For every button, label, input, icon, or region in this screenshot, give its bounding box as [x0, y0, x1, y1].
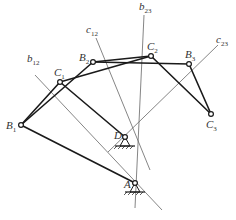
- link-B2-B3: [93, 62, 189, 64]
- label-c12: c12: [86, 23, 98, 38]
- label-B2: B2: [79, 51, 90, 66]
- joint-B3-icon: [187, 62, 192, 67]
- label-D: D: [113, 129, 122, 141]
- label-b12: b12: [27, 52, 40, 67]
- joint-C3-icon: [209, 112, 214, 117]
- label-C2: C2: [147, 40, 158, 55]
- link-B1-C1: [21, 82, 60, 125]
- joint-C2-icon: [149, 54, 154, 59]
- bisector-b23-line: [135, 15, 144, 208]
- joint-B1-icon: [19, 123, 24, 128]
- label-b23: b23: [139, 0, 152, 15]
- joints: [19, 54, 214, 186]
- link-C2-C3: [151, 56, 211, 114]
- link-C1-C2: [60, 56, 151, 82]
- label-B1: B1: [6, 119, 17, 134]
- linkage-diagram: B1C1B2C2B3C3DAb12c12b23c23: [0, 0, 236, 220]
- link-B3-C3: [189, 64, 211, 114]
- joint-A-icon: [133, 181, 138, 186]
- label-B3: B3: [185, 48, 196, 63]
- linkage-bars: [21, 56, 211, 183]
- joint-B2-icon: [91, 60, 96, 65]
- label-C3: C3: [206, 118, 217, 133]
- label-A: A: [123, 178, 131, 190]
- joint-D-icon: [123, 135, 128, 140]
- labels: B1C1B2C2B3C3DAb12c12b23c23: [6, 0, 228, 190]
- label-C1: C1: [54, 66, 65, 81]
